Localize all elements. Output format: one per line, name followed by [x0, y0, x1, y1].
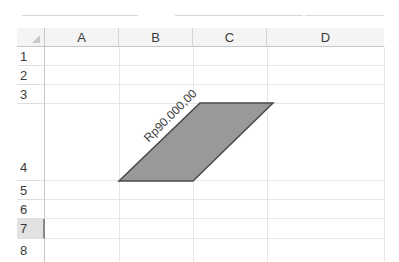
- spreadsheet-grid: A B C D 1 2 3 4 5 6 7 8 Rp90.000,00: [0, 0, 399, 262]
- parallelogram-shape[interactable]: [0, 0, 399, 262]
